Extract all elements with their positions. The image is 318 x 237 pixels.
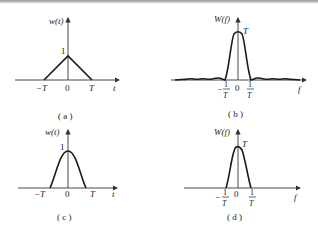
tick-zero: 0 — [234, 189, 239, 199]
y-axis-label: W(f) — [214, 14, 230, 24]
peak-label: T — [243, 26, 249, 36]
peak-label: 1 — [61, 46, 66, 56]
tick-pos: T — [89, 83, 95, 93]
caption: ( d ) — [227, 212, 242, 222]
svg-text:T: T — [249, 199, 254, 208]
svg-text:1: 1 — [223, 188, 227, 197]
panel-d: W(f) T − 1 T 0 1 T f ( d ) — [184, 127, 300, 222]
y-axis-label: w(t) — [49, 16, 64, 26]
svg-text:T: T — [223, 91, 228, 100]
figure-canvas: w(t) 1 −T 0 T t ( a ) W(f) T − 1 T 0 1 T… — [0, 0, 318, 237]
tick-neg: − 1 T — [215, 188, 229, 208]
caption: ( a ) — [58, 111, 73, 121]
tick-neg: −T — [34, 189, 46, 199]
sinc-squared-curve — [175, 32, 300, 80]
caption: ( b ) — [228, 109, 243, 119]
x-axis-label: f — [294, 192, 298, 202]
svg-text:1: 1 — [250, 188, 254, 197]
svg-text:1: 1 — [224, 80, 228, 89]
tick-neg: −T — [36, 83, 48, 93]
panel-b: W(f) T − 1 T 0 1 T f ( b ) — [171, 14, 306, 119]
tick-zero: 0 — [235, 83, 240, 93]
svg-text:T: T — [247, 91, 252, 100]
caption: ( c ) — [57, 212, 72, 222]
tick-zero: 0 — [65, 189, 70, 199]
tick-pos: 1 T — [247, 80, 254, 100]
panel-c: w(t) 1 −T 0 T t ( c ) — [18, 127, 117, 222]
peak-label: T — [242, 139, 248, 149]
y-axis-label: W(f) — [214, 127, 230, 137]
x-axis-label: f — [298, 84, 302, 94]
svg-text:T: T — [222, 199, 227, 208]
x-axis-label: t — [113, 83, 116, 93]
bandlimited-lobe-curve — [226, 147, 251, 188]
x-axis-label: t — [112, 189, 115, 199]
svg-text:−: − — [217, 84, 222, 94]
tick-neg: − 1 T — [217, 80, 230, 100]
y-axis-label: w(t) — [45, 127, 60, 137]
peak-label: 1 — [60, 142, 65, 152]
tick-pos: 1 T — [249, 188, 256, 208]
tick-pos: T — [90, 189, 96, 199]
svg-text:1: 1 — [248, 80, 252, 89]
tick-zero: 0 — [65, 83, 70, 93]
panel-a: w(t) 1 −T 0 T t ( a ) — [15, 16, 119, 121]
svg-text:−: − — [215, 192, 220, 202]
